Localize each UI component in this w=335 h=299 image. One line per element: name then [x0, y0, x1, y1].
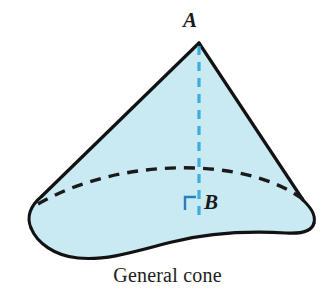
base-center-label-b: B: [204, 192, 218, 213]
figure-caption: General cone: [0, 264, 335, 287]
cone-diagram-svg: [0, 0, 335, 299]
vertex-label-a: A: [183, 10, 197, 31]
general-cone-figure: A B General cone: [0, 0, 335, 299]
